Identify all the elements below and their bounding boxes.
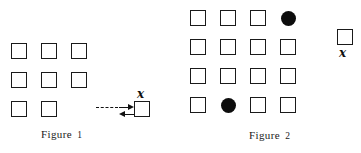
figure-2-panel: x Figure2 [0,0,361,153]
empty-square-cell[interactable] [280,39,296,55]
figure-2-caption: Figure2 [249,129,290,141]
empty-square-cell[interactable] [250,97,266,113]
empty-square-cell[interactable] [220,68,236,84]
detached-square-cell[interactable] [337,29,353,45]
empty-square-cell[interactable] [280,68,296,84]
figure-2-caption-number: 2 [285,131,290,141]
figure-sheet: x Figure1 x Figure2 [0,0,361,153]
empty-square-cell[interactable] [220,39,236,55]
x-variable-label: x [339,47,346,59]
empty-square-cell[interactable] [190,39,206,55]
empty-square-cell[interactable] [190,68,206,84]
empty-square-cell[interactable] [250,68,266,84]
empty-square-cell[interactable] [190,97,206,113]
empty-square-cell[interactable] [190,10,206,26]
filled-disc-cell[interactable] [221,98,236,113]
empty-square-cell[interactable] [220,10,236,26]
empty-square-cell[interactable] [250,39,266,55]
empty-square-cell[interactable] [280,97,296,113]
filled-disc-cell[interactable] [281,11,296,26]
empty-square-cell[interactable] [250,10,266,26]
figure-2-caption-word: Figure [249,129,280,141]
